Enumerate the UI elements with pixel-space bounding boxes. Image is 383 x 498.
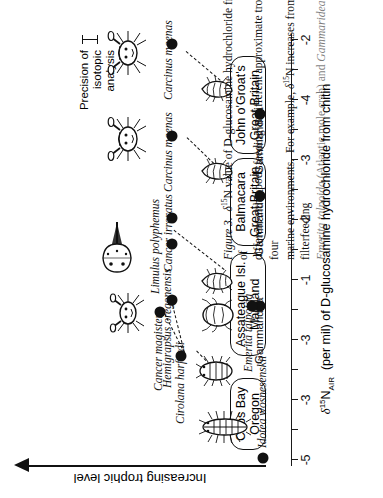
species-label-idotea: Idotea wosnesenskii <box>256 356 268 448</box>
horseshoe-crab-illustration-limulus <box>100 222 134 278</box>
axis-tick-label: -3 <box>299 395 313 406</box>
group-label-gammaridea-assateague: Gammaridea <box>253 310 265 364</box>
axis-tick <box>291 309 298 310</box>
caption-line-2: different arthropods feeding at differen… <box>251 0 282 260</box>
nitrogen-symbol: N <box>319 390 333 399</box>
crab-illustration-carcinus-balmacara <box>108 116 148 162</box>
axis-tick-label: -3 <box>299 335 313 346</box>
species-label-cancer-irroratus: Cancer irroratus <box>162 194 174 272</box>
arrow-head-icon <box>14 458 29 472</box>
axis-tick <box>291 369 298 370</box>
caption-line-3: marine environments. For example, δ15N i… <box>282 0 313 260</box>
trophic-arrow-label: Increasing trophic level <box>14 471 266 486</box>
axis-tick-label: -1 <box>299 275 313 286</box>
precision-line-2: isotopic <box>91 50 104 166</box>
amphipod-illustration-gammaridea-assateague <box>200 268 234 294</box>
isopod-illustration-cirolana <box>196 356 236 386</box>
species-label-carcinus-john-ogroats: Carcinus maenas <box>162 20 174 100</box>
mole-crab-illustration-emerita <box>198 298 238 332</box>
connector-line <box>174 230 225 270</box>
species-label-hemigrapsus: Hemigrapsus oregonensis <box>162 304 174 388</box>
species-label-emerita: Emerita talpoida <box>242 310 254 372</box>
axis-tick <box>291 279 298 280</box>
caption-line-1: Figure 3. δ15N value of D-glucosamine hy… <box>220 0 251 260</box>
species-label-cirolana: Cirolana harfordi <box>174 342 186 424</box>
precision-line-1: Precision of <box>78 50 91 166</box>
axis-tick <box>291 339 298 340</box>
delta-symbol: δ <box>319 408 333 414</box>
caption-line-4-clipped: Emerita talpoida (Atlantic mole crab) an… <box>314 0 327 260</box>
isotope-superscript: 15 <box>318 399 327 408</box>
axis-tick <box>291 429 298 430</box>
figure-panel: -5 -3 -3 -1 -2 -3 -4 -2 δ15NAIR (per mil… <box>0 0 383 498</box>
arrow-line <box>28 465 266 467</box>
figure-number: Figure 3. <box>222 217 235 260</box>
isopod-illustration-idotea <box>198 410 252 444</box>
crab-illustration-hemigrapsus <box>110 292 146 334</box>
species-label-limulus: Limulus polyphemus <box>150 236 162 294</box>
axis-tick-label: -5 <box>299 455 313 466</box>
crab-illustration-carcinus-john-ogroats <box>108 30 148 76</box>
air-subscript: AIR <box>327 377 336 390</box>
figure-caption: Figure 3. δ15N value of D-glucosamine hy… <box>220 0 327 260</box>
axis-tick <box>291 399 298 400</box>
species-label-carcinus-balmacara: Carcinus maenas <box>162 112 174 192</box>
trophic-level-arrow: Increasing trophic level <box>14 452 266 494</box>
axis-tick <box>291 459 298 460</box>
